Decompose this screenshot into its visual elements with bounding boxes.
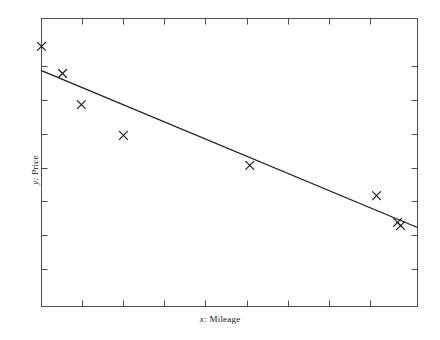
y-axis-label: y: Price — [26, 0, 44, 340]
scatter-plot-figure: x: Mileage y: Price — [0, 0, 440, 340]
y-axis-label-prefix: y: — [30, 177, 40, 184]
x-axis-label: x: Mileage — [0, 314, 440, 324]
figure-background — [0, 0, 440, 340]
y-axis-label-name: Price — [30, 155, 40, 175]
x-axis-label-name: Mileage — [209, 314, 240, 324]
plot-canvas — [0, 0, 440, 340]
x-axis-label-prefix: x: — [200, 314, 207, 324]
